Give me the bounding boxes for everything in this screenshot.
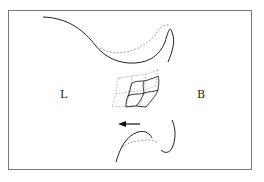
diagram-canvas [0,0,264,182]
top-solid-curve [43,17,174,63]
arrow-left-icon [118,121,140,127]
solid-grid [126,76,159,107]
label-right: B [197,88,205,101]
top-dashed-curve [100,25,170,53]
bottom-dashed-curve [122,140,157,148]
bottom-solid-curve [116,131,152,162]
label-left: L [60,88,67,101]
right-hook-curve [161,120,175,152]
